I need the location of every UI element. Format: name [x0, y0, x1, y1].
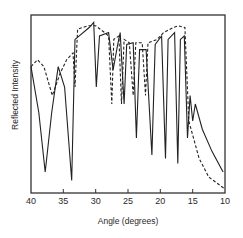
x-tick-label: 25 [118, 196, 138, 206]
x-axis-label: Angle (degrees) [0, 216, 243, 226]
solid-series [31, 22, 223, 180]
plot-frame [31, 15, 225, 193]
x-tick-label: 20 [150, 196, 170, 206]
x-tick-label: 10 [215, 196, 235, 206]
x-tick-label: 15 [183, 196, 203, 206]
solid-curve [31, 22, 223, 180]
y-axis-label: Reflected Intensity [10, 40, 20, 150]
x-tick-label: 40 [21, 196, 41, 206]
x-tick-label: 30 [86, 196, 106, 206]
x-tick-label: 35 [53, 196, 73, 206]
